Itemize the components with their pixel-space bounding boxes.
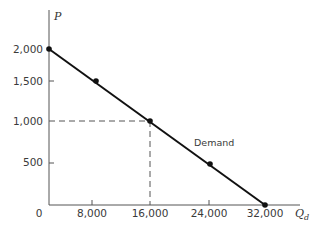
x-axis-label: Qd xyxy=(295,207,309,222)
y-tick-label: 1,000 xyxy=(13,115,43,127)
data-point xyxy=(46,46,52,52)
y-tick-label: 2,000 xyxy=(13,43,43,55)
data-point xyxy=(207,161,213,167)
x-tick-label: 16,000 xyxy=(132,207,169,219)
x-tick-label: 32,000 xyxy=(247,207,284,219)
y-tick-label: 500 xyxy=(23,156,43,168)
demand-chart: P 2,000 1,500 1,000 500 0 8,000 16,000 2… xyxy=(0,0,326,243)
y-axis-label: P xyxy=(53,10,62,23)
x-tick-label: 8,000 xyxy=(77,207,107,219)
origin-label: 0 xyxy=(36,207,43,219)
x-tick-label: 24,000 xyxy=(191,207,228,219)
data-point xyxy=(147,118,153,124)
y-tick-label: 1,500 xyxy=(13,75,43,87)
demand-curve xyxy=(49,49,265,205)
data-point xyxy=(93,78,99,84)
demand-label: Demand xyxy=(194,137,234,148)
